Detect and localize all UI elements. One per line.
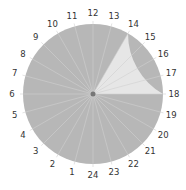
hour-label: 18 xyxy=(169,89,180,99)
center-dot xyxy=(91,92,96,97)
hour-label: 20 xyxy=(158,130,169,140)
hour-label: 10 xyxy=(47,19,58,29)
hour-label: 24 xyxy=(88,170,99,180)
hour-label: 14 xyxy=(128,19,139,29)
hour-label: 21 xyxy=(145,146,156,156)
hour-label: 17 xyxy=(166,68,177,78)
hour-label: 3 xyxy=(33,146,38,156)
hour-label: 11 xyxy=(67,11,78,21)
hour-label: 8 xyxy=(20,49,25,59)
hour-label: 2 xyxy=(50,159,55,169)
hour-dial-chart: 123456789101112131415161718192021222324 xyxy=(0,0,186,190)
hour-label: 13 xyxy=(109,11,120,21)
hour-label: 15 xyxy=(145,32,156,42)
hour-label: 12 xyxy=(88,8,99,18)
hour-label: 16 xyxy=(158,49,169,59)
hour-label: 5 xyxy=(12,110,17,120)
hour-label: 22 xyxy=(128,159,139,169)
hour-label: 19 xyxy=(166,110,177,120)
hour-label: 1 xyxy=(69,167,74,177)
hour-label: 6 xyxy=(9,89,14,99)
hour-label: 4 xyxy=(20,130,25,140)
hour-label: 23 xyxy=(109,167,120,177)
hour-label: 9 xyxy=(33,32,38,42)
hour-label: 7 xyxy=(12,68,17,78)
